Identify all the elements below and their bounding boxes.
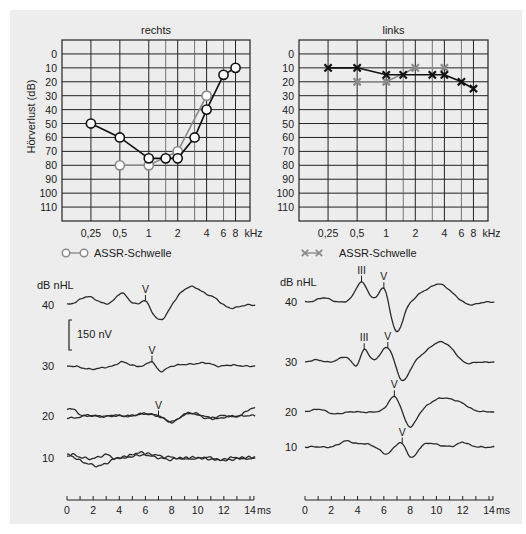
legend: ASSR-Schwelle — [302, 247, 417, 259]
waveform-trace — [67, 286, 255, 319]
level-label: 30 — [285, 356, 297, 368]
x-tick-label: 6 — [221, 227, 227, 239]
x-unit-label: kHz — [482, 227, 500, 239]
legend-label: ASSR-Schwelle — [339, 247, 417, 259]
waveform-trace — [305, 441, 494, 458]
peak-label-V: V — [142, 283, 149, 295]
chart-title: rechts — [141, 24, 171, 36]
circle-marker-icon — [173, 154, 182, 163]
y-tick-label: 40 — [282, 104, 294, 116]
x-tick-label: 4 — [441, 227, 447, 239]
y-unit-label: dB nHL — [37, 279, 74, 291]
x-tick-label: 2 — [90, 504, 96, 516]
peak-label-V: V — [380, 270, 387, 282]
x-tick-label: 0 — [302, 504, 308, 516]
x-tick-label: 8 — [233, 227, 239, 239]
peak-label-V: V — [384, 330, 391, 342]
audiogram-rechts: rechts01020304050607080901001100,250,512… — [25, 24, 263, 259]
circle-marker-icon — [144, 154, 153, 163]
y-tick-label: 80 — [282, 159, 294, 171]
y-tick-label: 20 — [282, 76, 294, 88]
x-tick-label: 0,5 — [113, 227, 128, 239]
x-tick-label: 2 — [175, 227, 181, 239]
y-tick-label: 40 — [45, 104, 57, 116]
x-tick-label: 0 — [64, 504, 70, 516]
y-tick-label: 10 — [45, 62, 57, 74]
x-tick-label: 10 — [431, 504, 443, 516]
y-tick-label: 70 — [45, 145, 57, 157]
y-tick-label: 20 — [45, 76, 57, 88]
y-tick-label: 30 — [45, 90, 57, 102]
figure: rechts01020304050607080901001100,250,512… — [0, 0, 526, 534]
y-tick-label: 50 — [282, 118, 294, 130]
x-tick-label: 0,25 — [318, 227, 339, 239]
level-label: 40 — [42, 299, 54, 311]
x-tick-label: 8 — [471, 227, 477, 239]
circle-marker-icon — [202, 105, 211, 114]
x-tick-label: 6 — [458, 227, 464, 239]
level-label: 30 — [42, 360, 54, 372]
scale-bar: 150 nV — [69, 320, 113, 350]
y-tick-label: 70 — [282, 145, 294, 157]
y-tick-label: 100 — [39, 187, 57, 199]
y-tick-label: 110 — [40, 201, 57, 213]
level-label: 10 — [285, 441, 297, 453]
abr-abr_left: 02468101214msdB nHL40IIIV30IIIV20V10V — [280, 264, 510, 516]
peak-label-V: V — [148, 344, 155, 356]
level-label: 20 — [42, 410, 54, 422]
y-tick-label: 0 — [51, 48, 57, 60]
x-tick-label: 10 — [192, 504, 204, 516]
y-tick-label: 90 — [45, 173, 57, 185]
legend-circle-icon — [62, 249, 70, 257]
x-tick-label: 12 — [457, 504, 469, 516]
x-tick-label: 8 — [407, 504, 413, 516]
x-tick-label: 4 — [116, 504, 122, 516]
abr-abr_right: 02468101214msdB nHL40V30V20V10 — [37, 279, 271, 516]
legend-circle-icon — [80, 249, 88, 257]
circle-marker-icon — [86, 119, 95, 128]
circle-marker-icon — [190, 133, 199, 142]
circle-marker-icon — [202, 91, 211, 100]
waveform-trace — [305, 342, 494, 381]
y-tick-label: 50 — [45, 118, 57, 130]
x-tick-label: 14 — [483, 504, 495, 516]
y-tick-label: 90 — [282, 173, 294, 185]
circle-marker-icon — [161, 154, 170, 163]
x-tick-label: 0,25 — [81, 227, 102, 239]
x-tick-label: 6 — [381, 504, 387, 516]
audiogram-links: links01020304050607080901001100,250,5124… — [276, 24, 500, 259]
circle-marker-icon — [219, 70, 228, 79]
x-tick-label: 2 — [328, 504, 334, 516]
circle-marker-icon — [231, 63, 240, 72]
peak-label-V: V — [399, 426, 406, 438]
x-unit-label: kHz — [245, 227, 263, 239]
y-tick-label: 30 — [282, 90, 294, 102]
level-label: 40 — [285, 296, 297, 308]
y-tick-label: 60 — [45, 131, 57, 143]
circle-marker-icon — [115, 161, 124, 170]
x-tick-label: 12 — [218, 504, 230, 516]
x-unit-label: ms — [496, 504, 510, 516]
y-unit-label: dB nHL — [280, 276, 317, 288]
waveform-trace — [305, 282, 494, 332]
legend: ASSR-Schwelle — [62, 247, 171, 259]
y-tick-label: 0 — [288, 48, 294, 60]
x-tick-label: 4 — [204, 227, 210, 239]
x-tick-label: 2 — [412, 227, 418, 239]
x-tick-label: 4 — [355, 504, 361, 516]
level-label: 10 — [42, 452, 54, 464]
x-tick-label: 1 — [146, 227, 152, 239]
y-tick-label: 10 — [282, 62, 294, 74]
waveform-trace — [305, 396, 494, 427]
y-tick-label: 100 — [276, 187, 294, 199]
scale-bar-label: 150 nV — [77, 328, 113, 340]
x-tick-label: 8 — [169, 504, 175, 516]
peak-label-III: III — [360, 331, 369, 343]
y-axis-label: Hörverlust (dB) — [25, 80, 37, 154]
circle-marker-icon — [115, 133, 124, 142]
x-tick-label: 1 — [383, 227, 389, 239]
y-tick-label: 80 — [45, 159, 57, 171]
x-unit-label: ms — [257, 504, 271, 516]
x-tick-label: 14 — [244, 504, 256, 516]
x-tick-label: 0,5 — [350, 227, 365, 239]
